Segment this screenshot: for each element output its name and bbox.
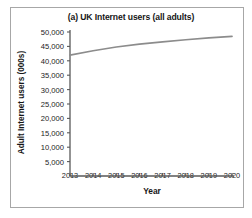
plot-area	[0, 0, 252, 218]
data-series-group	[70, 36, 232, 55]
data-series-line-0	[70, 36, 232, 55]
axis-tick-marks	[67, 32, 232, 176]
axis-lines	[70, 30, 234, 176]
figure-container: (a) UK Internet users (all adults) Adult…	[0, 0, 252, 218]
